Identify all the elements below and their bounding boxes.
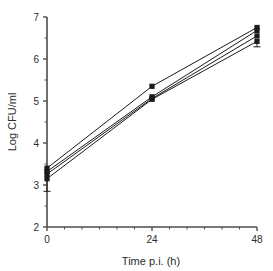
y-axis-tick-label: 6: [33, 54, 39, 65]
y-axis-tick-label: 3: [33, 180, 39, 191]
chart-figure: 02448 234567 Time p.i. (h) Log CFU/ml: [0, 0, 273, 271]
y-axis-tick-label: 4: [33, 138, 39, 149]
data-point-marker: [149, 97, 154, 102]
data-point-marker: [149, 84, 154, 89]
data-point-marker: [254, 39, 259, 44]
x-axis-tick-label: 0: [44, 234, 50, 245]
data-point-marker: [44, 171, 49, 176]
line-chart: 02448 234567 Time p.i. (h) Log CFU/ml: [0, 0, 273, 271]
y-axis-title: Log CFU/ml: [6, 93, 18, 152]
chart-background: [0, 0, 273, 271]
y-axis-tick-label: 5: [33, 96, 39, 107]
y-axis-tick-label: 7: [33, 12, 39, 23]
data-point-marker: [254, 33, 259, 38]
y-axis-tick-label: 2: [33, 222, 39, 233]
data-point-marker: [44, 176, 49, 181]
x-axis-tick-label: 24: [146, 234, 158, 245]
data-point-marker: [254, 28, 259, 33]
x-axis-title: Time p.i. (h): [122, 255, 180, 267]
x-axis-tick-label: 48: [251, 234, 263, 245]
